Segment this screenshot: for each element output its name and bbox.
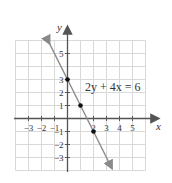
y-axis-label: y	[56, 21, 62, 33]
svg-text:1: 1	[59, 101, 64, 111]
svg-text:−2: −2	[37, 123, 47, 133]
svg-text:−3: −3	[24, 123, 34, 133]
svg-text:5: 5	[130, 123, 135, 133]
svg-text:−3: −3	[54, 153, 64, 163]
equation-label: 2y + 4x = 6	[85, 80, 141, 94]
svg-text:2: 2	[59, 88, 64, 98]
data-point	[65, 77, 70, 82]
data-point	[78, 103, 83, 108]
svg-text:3: 3	[59, 75, 64, 85]
x-axis-label: x	[155, 120, 161, 132]
svg-text:5: 5	[59, 49, 64, 59]
graph: x y −3−2−123455321−1−2−3 2y + 4x = 6	[0, 0, 172, 183]
svg-text:3: 3	[104, 123, 109, 133]
svg-text:−1: −1	[54, 127, 64, 137]
svg-text:4: 4	[117, 123, 122, 133]
data-point	[91, 129, 96, 134]
svg-text:−2: −2	[54, 140, 64, 150]
